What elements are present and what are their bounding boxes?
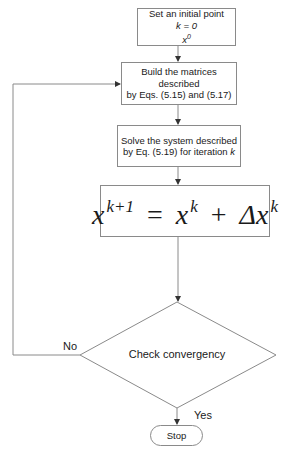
solve-system-box: Solve the system described by Eq. (5.19)… [117, 125, 241, 167]
update-equation-box: xk+1 = xk + Δxk [100, 185, 270, 237]
solve-box-line2: by Eq. (5.19) for iteration k [123, 146, 235, 158]
solve-box-line1: Solve the system described [121, 135, 237, 147]
no-label: No [63, 340, 77, 352]
start-box-line3: x0 [182, 31, 191, 46]
build-box-line2: by Eqs. (5.15) and (5.17) [126, 89, 231, 101]
update-equation: xk+1 = xk + Δxk [92, 192, 278, 230]
build-matrices-box: Build the matrices described by Eqs. (5.… [121, 62, 237, 105]
stop-terminal: Stop [150, 425, 203, 446]
build-box-line1: Build the matrices described [122, 66, 236, 89]
start-box: Set an initial point k = 0 x0 [137, 8, 236, 46]
start-box-line1: Set an initial point [149, 8, 224, 20]
decision-text: Check convergency [117, 348, 237, 360]
start-box-line2: k = 0 [176, 20, 197, 32]
yes-label: Yes [194, 409, 212, 421]
